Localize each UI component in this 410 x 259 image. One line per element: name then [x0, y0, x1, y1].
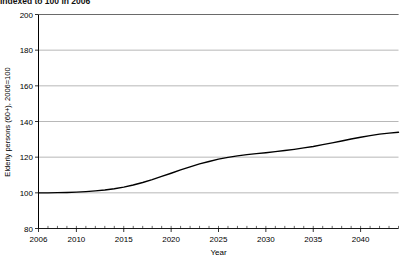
x-axis-title: Year: [210, 248, 227, 257]
svg-text:200: 200: [20, 11, 34, 20]
svg-text:2015: 2015: [115, 235, 133, 244]
svg-text:100: 100: [20, 189, 34, 198]
svg-text:80: 80: [24, 225, 33, 234]
svg-text:2030: 2030: [257, 235, 275, 244]
chart-figure: Indexed to 100 in 2006 Elderly persons (…: [0, 0, 410, 259]
svg-text:160: 160: [20, 82, 34, 91]
svg-text:2010: 2010: [67, 235, 85, 244]
svg-text:2040: 2040: [352, 235, 370, 244]
svg-text:2020: 2020: [162, 235, 180, 244]
grid-lines: [39, 15, 399, 193]
data-series-line: [39, 132, 399, 193]
axis-tick-labels: 8010012014016018020020062010201520202025…: [20, 11, 370, 244]
y-axis-ticks: [35, 15, 39, 229]
svg-text:140: 140: [20, 118, 34, 127]
x-axis-ticks: [39, 229, 361, 233]
svg-text:120: 120: [20, 153, 34, 162]
line-chart-plot: 8010012014016018020020062010201520202025…: [0, 0, 410, 259]
svg-text:180: 180: [20, 46, 34, 55]
svg-text:2006: 2006: [30, 235, 48, 244]
svg-text:2025: 2025: [210, 235, 228, 244]
svg-text:2035: 2035: [304, 235, 322, 244]
